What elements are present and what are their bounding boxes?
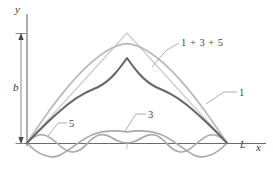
amplitude-dimension-label: b [13,82,19,93]
dimension-arrow-top [18,33,23,40]
leader-line-five [48,123,67,136]
x-axis-label: x [256,142,261,153]
target-triangle-curve [27,33,227,143]
sum-curve-label: 1 + 3 + 5 [181,38,224,49]
plot-canvas [0,0,273,173]
leader-line-one [206,92,237,104]
length-label: L [240,140,246,150]
harmonic-3-label: 3 [148,110,154,121]
harmonic-1-label: 1 [239,88,245,99]
leader-line-sum [152,43,179,67]
y-axis-label: y [15,4,20,15]
harmonic-5-label: 5 [69,119,75,130]
fourier-series-figure: y x b L 1 + 3 + 5 1 3 5 [0,0,273,173]
leader-line-three [125,114,146,131]
axes-group [24,14,266,149]
harmonic-5-curve [27,135,227,152]
dimension-arrow-bottom [18,137,23,144]
